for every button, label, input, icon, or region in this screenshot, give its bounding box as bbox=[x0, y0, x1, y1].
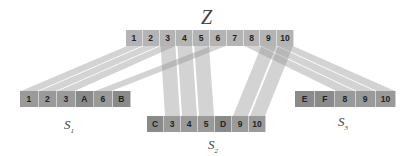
s1-box-2: 2 bbox=[39, 91, 58, 107]
s2-box-9: 9 bbox=[232, 116, 249, 132]
z-box-9: 9 bbox=[260, 30, 277, 46]
s3-label: S3 bbox=[338, 114, 348, 132]
z-title: Z bbox=[201, 6, 212, 29]
s2-box-5: 5 bbox=[198, 116, 215, 132]
z-box-5: 5 bbox=[193, 30, 210, 46]
s1-box-A: A bbox=[76, 91, 95, 107]
s1-box-1: 1 bbox=[20, 91, 39, 107]
s3-box-E: E bbox=[295, 91, 315, 107]
s3-box-9: 9 bbox=[356, 91, 376, 107]
z-box-6: 6 bbox=[210, 30, 227, 46]
z-box-7: 7 bbox=[227, 30, 244, 46]
z-box-10: 10 bbox=[277, 30, 294, 46]
s2-box-10: 10 bbox=[249, 116, 266, 132]
s3-box-F: F bbox=[315, 91, 335, 107]
s2-label: S2 bbox=[208, 137, 218, 155]
z-box-3: 3 bbox=[160, 30, 177, 46]
s3-box-10: 10 bbox=[376, 91, 396, 107]
s2-box-3: 3 bbox=[164, 116, 181, 132]
s1-box-3: 3 bbox=[57, 91, 76, 107]
z-box-4: 4 bbox=[176, 30, 193, 46]
s1-label: S1 bbox=[64, 117, 74, 135]
band-s1-2 bbox=[40, 46, 159, 91]
s2-box-D: D bbox=[215, 116, 232, 132]
z-box-8: 8 bbox=[244, 30, 261, 46]
z-box-1: 1 bbox=[126, 30, 143, 46]
s2-box-4: 4 bbox=[181, 116, 198, 132]
s2-box-C: C bbox=[147, 116, 164, 132]
band-s2-3 bbox=[161, 46, 180, 116]
z-box-2: 2 bbox=[143, 30, 160, 46]
s3-box-8: 8 bbox=[335, 91, 355, 107]
band-s2-5 bbox=[194, 46, 214, 116]
s1-box-B: B bbox=[113, 91, 132, 107]
s1-box-6: 6 bbox=[94, 91, 113, 107]
diagram: Z 12345678910 123A6BS1C345D910S2EF8910S3 bbox=[0, 0, 404, 156]
